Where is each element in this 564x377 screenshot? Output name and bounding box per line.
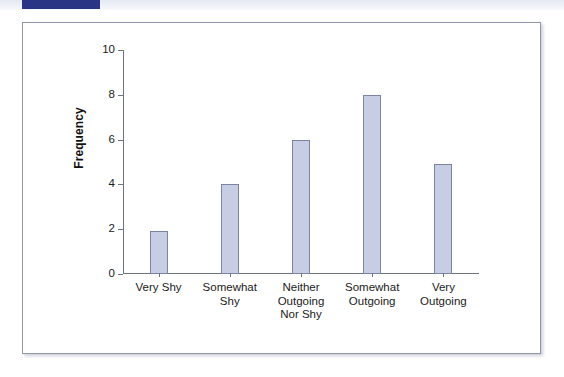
y-tick-label: 6	[89, 134, 115, 146]
x-tick-mark	[230, 273, 231, 277]
y-tick-label: 8	[89, 89, 115, 101]
page-top-band	[0, 0, 564, 10]
bar	[221, 184, 239, 274]
y-axis-title: Frequency	[72, 78, 86, 198]
x-tick-label: Neither Outgoing Nor Shy	[265, 281, 336, 322]
x-axis-labels: Very ShySomewhat ShyNeither Outgoing Nor…	[123, 281, 479, 351]
x-tick-mark	[159, 273, 160, 277]
bar	[292, 140, 310, 274]
y-tick-label: 4	[89, 178, 115, 190]
x-tick-mark	[301, 273, 302, 277]
x-tick-label: Somewhat Outgoing	[337, 281, 408, 308]
y-tick-label-wrap: 10	[83, 44, 115, 56]
bar	[150, 231, 168, 274]
y-tick-mark	[118, 274, 123, 275]
y-tick-label-wrap: 8	[83, 89, 115, 101]
x-tick-label: Very Outgoing	[408, 281, 479, 308]
bar	[434, 164, 452, 274]
y-tick-label: 2	[89, 223, 115, 235]
top-band-accent	[22, 0, 100, 9]
y-tick-label-wrap: 4	[83, 178, 115, 190]
y-tick-label: 10	[89, 44, 115, 56]
bar-chart-plot-area: 0246810 Frequency Very ShySomewhat ShyNe…	[23, 23, 542, 355]
bar	[363, 95, 381, 274]
y-tick-label-wrap: 0	[83, 268, 115, 280]
y-tick-label-wrap: 6	[83, 134, 115, 146]
y-tick-label: 0	[89, 268, 115, 280]
bars-layer	[123, 50, 479, 274]
x-tick-label: Very Shy	[123, 281, 194, 295]
x-tick-label: Somewhat Shy	[194, 281, 265, 308]
x-tick-mark	[443, 273, 444, 277]
x-tick-mark	[372, 273, 373, 277]
y-tick-label-wrap: 2	[83, 223, 115, 235]
figure-frame: 0246810 Frequency Very ShySomewhat ShyNe…	[22, 22, 541, 354]
